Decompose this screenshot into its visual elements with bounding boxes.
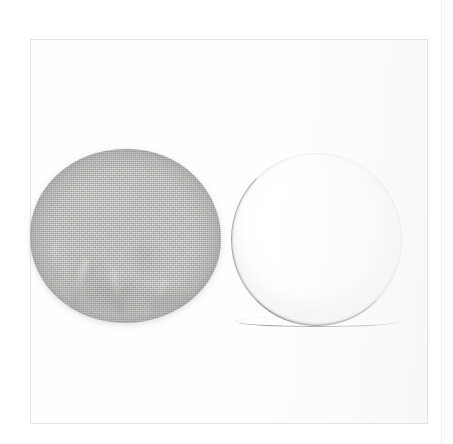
membrane-rim-bottom-edge	[235, 316, 399, 327]
sample-disc-membrane-white	[232, 154, 401, 325]
scan-edge-line-secondary	[444, 0, 445, 444]
figure-root	[0, 0, 453, 444]
membrane-highlight-sheen	[256, 181, 361, 239]
photo-frame	[30, 39, 428, 424]
scan-edge-line	[441, 0, 442, 444]
fabric-crease-icon	[110, 271, 125, 316]
fabric-crease-icon	[51, 243, 60, 281]
fabric-crease-icon	[70, 257, 90, 309]
membrane-rim-outline	[231, 153, 402, 326]
fabric-crease-icon	[150, 278, 168, 312]
sample-disc-fabric-gray	[30, 149, 221, 323]
